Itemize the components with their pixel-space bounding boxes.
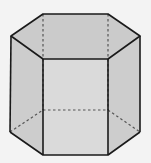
hexagonal-prism-diagram xyxy=(0,0,151,163)
edge-left-vertical xyxy=(10,36,11,132)
front-face xyxy=(43,59,108,155)
